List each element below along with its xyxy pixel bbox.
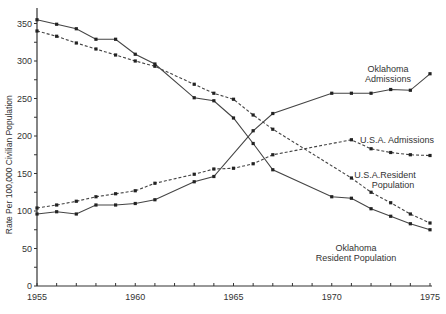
y-tick-label: 150 — [17, 169, 32, 179]
data-point — [330, 92, 333, 95]
data-point — [428, 221, 431, 224]
series-label-line: U.S.A.Resident — [354, 170, 416, 180]
data-point — [350, 176, 353, 179]
data-point — [389, 151, 392, 154]
data-point — [134, 59, 137, 62]
y-tick-label: 50 — [22, 244, 32, 254]
x-tick-label: 1975 — [420, 292, 440, 302]
data-point — [75, 200, 78, 203]
y-axis-title: Rate Per 100,000 Civilian Population — [4, 95, 14, 234]
data-point — [193, 83, 196, 86]
data-point — [428, 154, 431, 157]
series-label-line: Oklahoma — [367, 64, 408, 74]
data-point — [232, 98, 235, 101]
data-point — [134, 53, 137, 56]
y-tick-label: 200 — [17, 131, 32, 141]
data-point — [330, 195, 333, 198]
data-point — [369, 191, 372, 194]
data-point — [75, 212, 78, 215]
data-point — [35, 18, 38, 21]
data-point — [35, 29, 38, 32]
data-point — [153, 182, 156, 185]
data-point — [212, 92, 215, 95]
data-point — [389, 88, 392, 91]
data-point — [409, 89, 412, 92]
series-label-usa-admissions: U.S.A. Admissions — [360, 135, 435, 145]
data-point — [114, 192, 117, 195]
series-label-line: Admissions — [365, 74, 412, 84]
data-point — [271, 112, 274, 115]
data-point — [409, 212, 412, 215]
data-point — [55, 203, 58, 206]
data-point — [212, 167, 215, 170]
data-point — [389, 201, 392, 204]
data-point — [94, 47, 97, 50]
data-point — [389, 215, 392, 218]
data-point — [94, 38, 97, 41]
data-point — [350, 92, 353, 95]
data-point — [75, 41, 78, 44]
data-point — [409, 222, 412, 225]
series-label-line: Population — [372, 180, 415, 190]
data-point — [55, 35, 58, 38]
data-point — [369, 147, 372, 150]
data-point — [252, 113, 255, 116]
data-point — [252, 142, 255, 145]
data-point — [193, 180, 196, 183]
data-point — [114, 53, 117, 56]
x-tick-label: 1970 — [322, 292, 342, 302]
line-usa-resident-population — [37, 31, 430, 223]
data-point — [252, 162, 255, 165]
data-point — [153, 65, 156, 68]
data-point — [428, 72, 431, 75]
series-label-oklahoma-admissions: OklahomaAdmissions — [365, 64, 412, 84]
series-label-line: Oklahoma — [335, 243, 376, 253]
data-point — [35, 206, 38, 209]
data-point — [212, 99, 215, 102]
data-point — [134, 202, 137, 205]
data-point — [271, 153, 274, 156]
data-point — [134, 189, 137, 192]
y-tick-label: 100 — [17, 206, 32, 216]
series-label-line: Resident Population — [316, 253, 397, 263]
data-point — [428, 228, 431, 231]
data-point — [350, 138, 353, 141]
data-point — [75, 27, 78, 30]
data-point — [193, 96, 196, 99]
data-point — [232, 167, 235, 170]
y-tick-label: 350 — [17, 19, 32, 29]
data-point — [252, 129, 255, 132]
data-point — [55, 210, 58, 213]
data-point — [153, 198, 156, 201]
x-tick-label: 1955 — [27, 292, 47, 302]
data-point — [114, 203, 117, 206]
data-point — [409, 153, 412, 156]
y-tick-label: 0 — [27, 281, 32, 291]
data-point — [271, 168, 274, 171]
series-label-line: U.S.A. Admissions — [360, 135, 435, 145]
x-tick-label: 1965 — [223, 292, 243, 302]
data-point — [55, 23, 58, 26]
data-point — [350, 197, 353, 200]
y-tick-label: 250 — [17, 94, 32, 104]
data-point — [193, 173, 196, 176]
y-tick-label: 300 — [17, 56, 32, 66]
data-point — [232, 116, 235, 119]
x-tick-label: 1960 — [125, 292, 145, 302]
data-point — [114, 38, 117, 41]
data-point — [369, 92, 372, 95]
data-point — [212, 175, 215, 178]
series-label-oklahoma-resident-population: OklahomaResident Population — [316, 243, 397, 263]
data-point — [35, 212, 38, 215]
data-point — [94, 203, 97, 206]
data-point — [94, 195, 97, 198]
data-point — [271, 128, 274, 131]
line-chart: 1955196019651970197505010015020025030035… — [0, 0, 446, 314]
data-point — [369, 207, 372, 210]
series-group — [35, 18, 431, 231]
